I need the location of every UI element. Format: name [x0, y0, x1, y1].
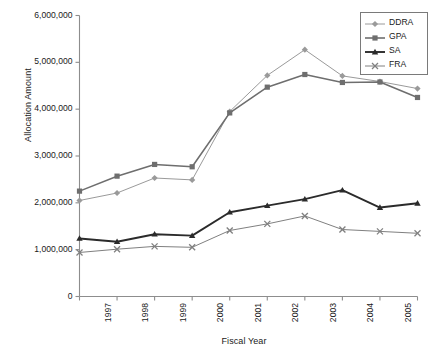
x-tick-label: 1997	[103, 303, 113, 322]
x-tick-label: 2000	[215, 303, 225, 322]
y-tick-label: 2,000,000	[13, 197, 73, 207]
x-axis-title: Fiscal Year	[70, 336, 418, 346]
x-tick-label: 2002	[290, 303, 300, 322]
line-chart: 01,000,0002,000,0003,000,0004,000,0005,0…	[0, 0, 434, 353]
series-lines	[76, 47, 420, 256]
y-tick-label: 4,000,000	[13, 103, 73, 113]
legend-item-gpa[interactable]: GPA	[364, 29, 424, 43]
legend-label: SA	[386, 45, 400, 55]
y-tick-label: 6,000,000	[13, 10, 73, 20]
series-gpa	[77, 72, 420, 194]
legend-item-ddra[interactable]: DDRA	[364, 15, 424, 29]
series-fra	[77, 213, 421, 256]
legend-marker-icon	[364, 58, 386, 70]
legend-marker-icon	[364, 44, 386, 56]
legend-label: DDRA	[386, 17, 413, 27]
legend-marker-icon	[364, 16, 386, 28]
y-tick-label: 3,000,000	[13, 150, 73, 160]
x-tick-label: 2005	[403, 303, 413, 322]
legend-label: FRA	[386, 59, 406, 69]
y-axis-title: Allocation Amount	[23, 25, 33, 185]
series-sa	[76, 187, 420, 244]
y-axis-title-text: Allocation Amount	[23, 68, 33, 142]
y-tick-label: 0	[13, 291, 73, 301]
x-tick-label: 1998	[140, 303, 150, 322]
chart-legend: DDRAGPASAFRA	[360, 12, 428, 75]
legend-item-fra[interactable]: FRA	[364, 57, 424, 71]
y-tick-label: 5,000,000	[13, 56, 73, 66]
x-tick-label: 2004	[366, 303, 376, 322]
y-tick-label: 1,000,000	[13, 244, 73, 254]
x-axis-title-text: Fiscal Year	[221, 336, 266, 346]
x-tick-label: 1999	[178, 303, 188, 322]
legend-marker-icon	[364, 30, 386, 42]
x-tick-label: 2001	[253, 303, 263, 322]
legend-label: GPA	[386, 31, 407, 41]
legend-item-sa[interactable]: SA	[364, 43, 424, 57]
x-tick-label: 2003	[328, 303, 338, 322]
